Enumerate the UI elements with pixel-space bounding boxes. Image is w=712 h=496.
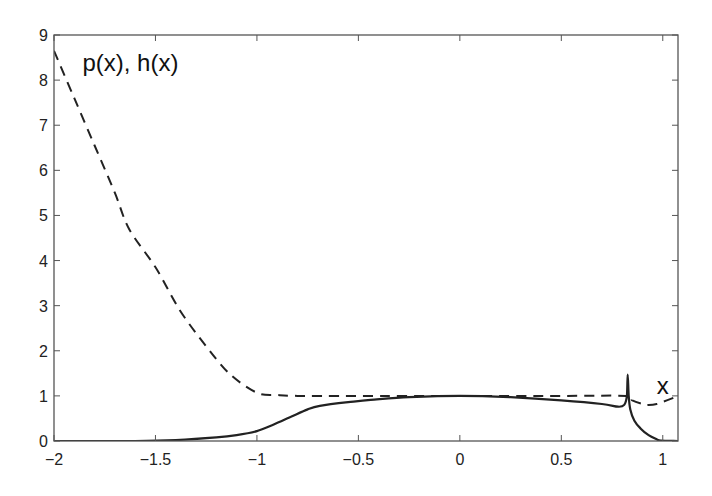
- x-tick-label: −0.5: [343, 451, 375, 468]
- series-px-line: [54, 375, 678, 441]
- chart: −2−1.5−1−0.500.510123456789 p(x), h(x)x: [0, 0, 712, 496]
- series-hx-line: [54, 51, 678, 405]
- x-tick-label: −1.5: [140, 451, 172, 468]
- y-tick-label: 1: [39, 388, 48, 405]
- y-tick-label: 5: [39, 207, 48, 224]
- curve-label-annotation: p(x), h(x): [82, 49, 178, 76]
- x-variable-annotation: x: [657, 372, 669, 399]
- plot-area: [54, 51, 678, 441]
- y-tick-label: 2: [39, 343, 48, 360]
- x-tick-label: −2: [45, 451, 63, 468]
- x-tick-label: 0: [455, 451, 464, 468]
- y-tick-label: 4: [39, 253, 48, 270]
- y-tick-label: 8: [39, 72, 48, 89]
- y-tick-label: 7: [39, 117, 48, 134]
- x-tick-label: 1: [658, 451, 667, 468]
- axes-frame: [54, 35, 678, 441]
- y-tick-label: 0: [39, 433, 48, 450]
- x-tick-label: 0.5: [550, 451, 572, 468]
- y-tick-label: 9: [39, 27, 48, 44]
- y-tick-label: 3: [39, 298, 48, 315]
- annotations: p(x), h(x)x: [82, 49, 668, 399]
- y-tick-label: 6: [39, 162, 48, 179]
- x-tick-label: −1: [248, 451, 266, 468]
